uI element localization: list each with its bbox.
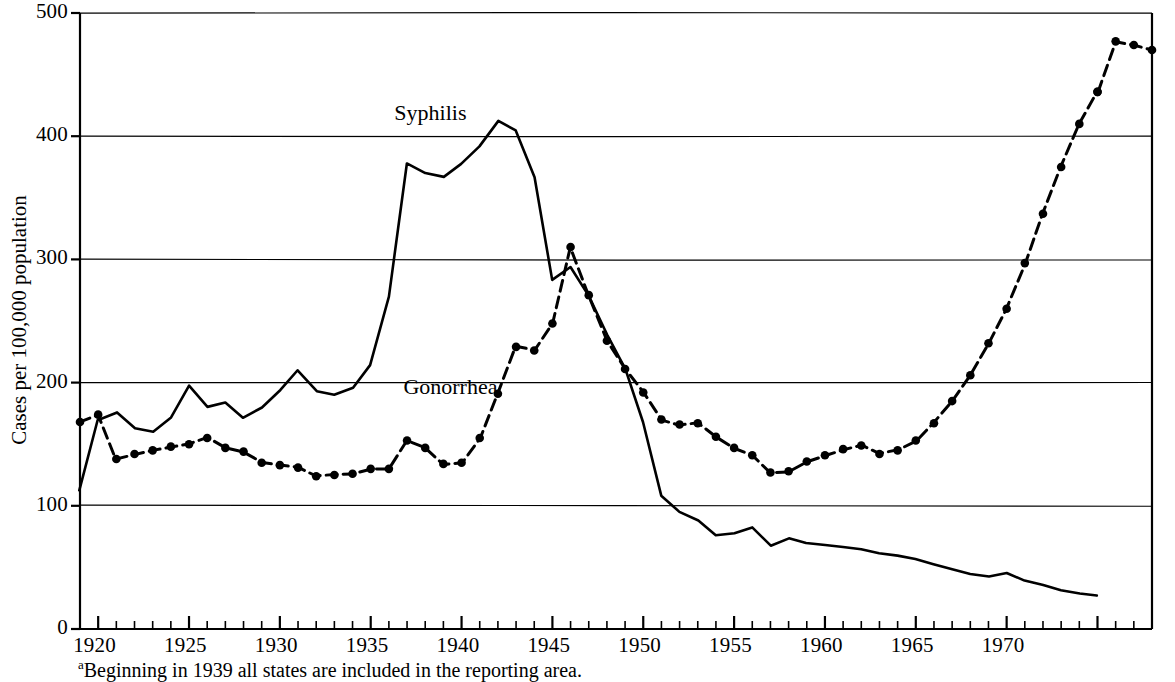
- data-point: [94, 410, 103, 419]
- y-tick-label: 100: [8, 492, 68, 517]
- data-point: [839, 445, 848, 454]
- axes-lines-group: [80, 13, 1152, 629]
- data-point: [1111, 37, 1120, 46]
- data-point: [584, 291, 593, 300]
- data-point: [657, 415, 666, 424]
- x-tick-label: 1945: [527, 633, 570, 658]
- data-point: [748, 451, 757, 460]
- data-point: [530, 346, 539, 355]
- footnote: aBeginning in 1939 all states are includ…: [78, 657, 582, 682]
- series-line-gonorrhea: [80, 92, 1097, 476]
- data-point: [257, 458, 266, 467]
- data-point: [603, 336, 612, 345]
- series-label-gonorrhea: Gonorrhea: [403, 374, 497, 400]
- x-tick-label: 1930: [255, 633, 298, 658]
- data-point: [1130, 41, 1139, 50]
- x-tick-label: 1955: [709, 633, 752, 658]
- x-tick-label: 1940: [437, 633, 480, 658]
- data-point: [1093, 88, 1102, 97]
- data-point: [566, 243, 575, 252]
- data-point: [294, 463, 303, 472]
- gridline: [80, 505, 1152, 506]
- data-point: [802, 457, 811, 466]
- y-tick-label: 400: [8, 122, 68, 147]
- data-point: [167, 442, 176, 451]
- data-point: [203, 434, 212, 443]
- gridline: [80, 13, 1152, 14]
- data-point: [457, 458, 466, 467]
- data-point: [730, 444, 739, 453]
- data-point: [1039, 210, 1048, 219]
- data-point: [893, 446, 902, 455]
- x-tick-label: 1950: [618, 633, 661, 658]
- data-point: [948, 397, 957, 406]
- gridline: [80, 136, 1152, 137]
- data-point: [330, 471, 339, 480]
- data-point: [366, 465, 375, 474]
- y-axis-title-text: Cases per 100,000 population: [7, 195, 31, 445]
- data-point: [821, 451, 830, 460]
- x-tick-label: 1960: [800, 633, 843, 658]
- data-point: [403, 436, 412, 445]
- series-label-syphilis: Syphilis: [394, 100, 466, 126]
- x-tick-label: 1970: [982, 633, 1025, 658]
- y-tick-label: 500: [8, 0, 68, 24]
- data-point: [712, 433, 721, 442]
- x-tick-label: 1965: [891, 633, 934, 658]
- data-point: [675, 420, 684, 429]
- data-series-group: [76, 37, 1157, 596]
- y-tick-label: 200: [8, 369, 68, 394]
- data-point: [421, 444, 430, 453]
- data-point: [512, 343, 521, 352]
- data-point: [439, 460, 448, 469]
- x-tick-label: 1920: [73, 633, 116, 658]
- footnote-text: Beginning in 1939 all states are include…: [84, 659, 582, 681]
- data-point: [385, 465, 394, 474]
- data-point: [621, 365, 630, 374]
- data-point: [912, 436, 921, 445]
- data-point: [112, 455, 121, 464]
- data-point: [766, 468, 775, 477]
- data-point: [276, 461, 285, 470]
- data-point: [1075, 120, 1084, 129]
- data-point: [784, 467, 793, 476]
- data-point: [312, 472, 321, 481]
- y-axis-ticks: [71, 13, 80, 629]
- data-point: [348, 469, 357, 478]
- data-point: [239, 447, 248, 456]
- x-axis-ticks: [98, 616, 1152, 629]
- data-point: [966, 371, 975, 380]
- data-point: [930, 419, 939, 428]
- y-tick-label: 300: [8, 245, 68, 270]
- data-point: [857, 441, 866, 450]
- data-point: [693, 419, 702, 428]
- series-line-gonorrhea-tail: [1098, 42, 1152, 92]
- data-point: [1002, 304, 1011, 313]
- gridline: [80, 259, 1152, 260]
- data-point: [130, 450, 139, 459]
- data-point: [76, 418, 85, 427]
- y-tick-label: 0: [8, 615, 68, 640]
- data-point: [875, 450, 884, 459]
- y-axis-title: Cases per 100,000 population: [7, 195, 31, 445]
- data-point: [548, 319, 557, 328]
- x-tick-label: 1935: [346, 633, 389, 658]
- data-point: [1021, 259, 1030, 268]
- gridlines-group: [80, 13, 1152, 507]
- data-point: [1057, 163, 1066, 172]
- series-line-syphilis: [79, 121, 1097, 596]
- data-point: [984, 339, 993, 348]
- data-point: [1148, 46, 1157, 55]
- data-point: [221, 444, 230, 453]
- x-tick-label: 1925: [164, 633, 207, 658]
- data-point: [185, 440, 194, 449]
- data-point: [639, 388, 648, 397]
- data-point: [475, 434, 484, 443]
- data-point: [148, 446, 157, 455]
